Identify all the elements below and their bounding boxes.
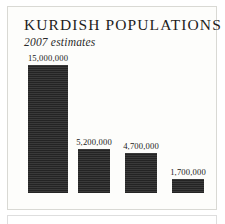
bar-group-turkey: 15,000,000	[28, 53, 68, 193]
bar-group-iraq: 5,200,000	[78, 53, 110, 193]
bar-value-label: 15,000,000	[28, 53, 68, 63]
chart-frame: KURDISH POPULATIONS 2007 estimates 15,00…	[7, 6, 217, 210]
chart-subtitle: 2007 estimates	[24, 35, 210, 49]
bar-turkey	[28, 65, 68, 193]
chart-figure: KURDISH POPULATIONS 2007 estimates 15,00…	[0, 0, 225, 224]
chart-title: KURDISH POPULATIONS	[24, 16, 210, 34]
bar-group-syria: 1,700,000	[172, 53, 204, 193]
bar-value-label: 4,700,000	[123, 141, 159, 151]
title-block: KURDISH POPULATIONS 2007 estimates	[24, 16, 210, 49]
bar-syria	[172, 179, 204, 194]
bar-iran	[125, 153, 157, 193]
bottom-divider	[7, 215, 217, 224]
bar-group-iran: 4,700,000	[125, 53, 157, 193]
bar-value-label: 5,200,000	[76, 137, 112, 147]
bar-value-label: 1,700,000	[170, 167, 206, 177]
plot-area: 15,000,000 5,200,000 4,700,000 1,700,000…	[20, 53, 218, 193]
bar-iraq	[78, 149, 110, 193]
